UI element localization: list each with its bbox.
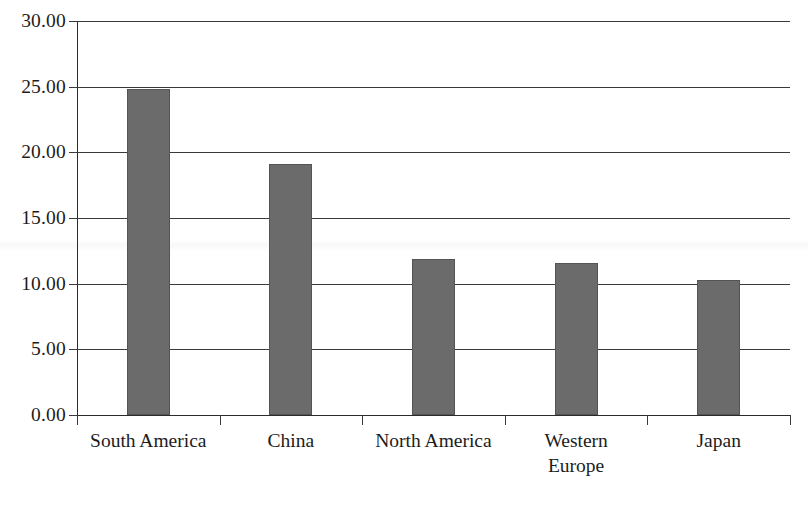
y-tick-mark: [69, 284, 78, 285]
x-category-label: China: [220, 428, 363, 453]
x-tick-mark: [220, 415, 221, 425]
bar: [127, 89, 170, 415]
x-tick-mark: [790, 415, 791, 425]
x-tick-mark: [77, 415, 78, 425]
x-tick-mark: [647, 415, 648, 425]
gridline: [77, 152, 790, 153]
y-tick-label: 0.00: [31, 405, 66, 425]
x-tick-mark: [362, 415, 363, 425]
bar-chart-figure: 30.0025.0020.0015.0010.005.000.00 South …: [0, 0, 808, 508]
bar: [412, 259, 455, 415]
y-tick-mark: [69, 218, 78, 219]
x-category-label: South America: [77, 428, 220, 453]
x-axis-baseline: [77, 415, 790, 416]
y-tick-label: 5.00: [31, 339, 66, 359]
y-tick-label: 10.00: [21, 274, 66, 294]
gridline: [77, 218, 790, 219]
x-tick-mark: [505, 415, 506, 425]
y-tick-label: 25.00: [21, 77, 66, 97]
y-tick-label: 30.00: [21, 11, 66, 31]
y-tick-label: 20.00: [21, 142, 66, 162]
x-category-label: North America: [362, 428, 505, 453]
y-tick-label: 15.00: [21, 208, 66, 228]
gridline: [77, 21, 790, 22]
y-tick-mark: [69, 87, 78, 88]
bar: [555, 263, 598, 415]
y-tick-mark: [69, 152, 78, 153]
x-category-label: Western Europe: [505, 428, 648, 478]
x-category-label: Japan: [647, 428, 790, 453]
bar: [697, 280, 740, 415]
gridline: [77, 87, 790, 88]
y-tick-mark: [69, 21, 78, 22]
bar: [269, 164, 312, 415]
y-tick-mark: [69, 349, 78, 350]
